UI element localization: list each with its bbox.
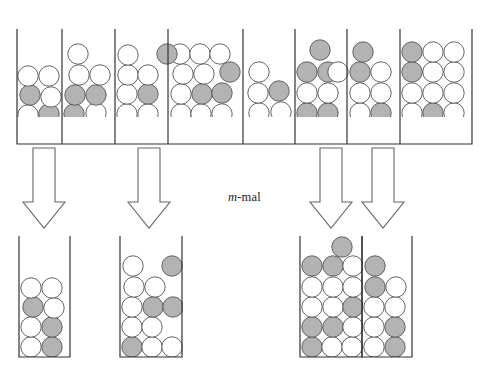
arrow-4	[362, 148, 404, 228]
ball-gray	[343, 297, 363, 317]
ball-white	[39, 66, 59, 86]
arrow-2	[128, 148, 170, 228]
top-tube-4	[157, 44, 240, 143]
ball-white	[402, 103, 422, 123]
ball-white	[423, 62, 443, 82]
ball-white	[248, 83, 268, 103]
ball-white	[343, 277, 363, 297]
arrow-3	[310, 148, 352, 228]
bottom-tube-row	[19, 236, 412, 357]
ball-white	[191, 104, 211, 124]
ball-gray	[332, 237, 352, 257]
ball-gray	[302, 337, 322, 357]
ball-gray	[122, 337, 142, 357]
ball-gray	[350, 62, 370, 82]
ball-white	[21, 337, 41, 357]
ball-gray	[365, 256, 385, 276]
ball-white	[328, 62, 348, 82]
ball-white	[423, 42, 443, 62]
ball-white	[138, 65, 158, 85]
ball-gray	[269, 81, 289, 101]
ball-white	[122, 297, 142, 317]
ball-white	[210, 44, 230, 64]
ball-white	[123, 256, 143, 276]
top-tube-6	[297, 40, 348, 143]
ball-white	[212, 104, 232, 124]
ball-gray	[23, 297, 43, 317]
ball-white	[249, 103, 269, 123]
ball-white	[142, 317, 162, 337]
ball-white	[444, 42, 464, 62]
ball-white	[342, 337, 362, 357]
m-mal-caption: m-mal	[228, 190, 261, 205]
ball-white	[117, 84, 137, 104]
ball-white	[21, 317, 41, 337]
ball-gray	[385, 317, 405, 337]
bottom-tube-2-balls	[122, 256, 183, 357]
ball-white	[271, 102, 291, 122]
ball-gray	[212, 83, 232, 103]
ball-white	[371, 83, 391, 103]
ball-white	[443, 123, 463, 143]
ball-white	[171, 84, 191, 104]
ball-white	[64, 123, 84, 143]
ball-gray	[297, 103, 317, 123]
ball-gray	[371, 103, 391, 123]
ball-white	[444, 83, 464, 103]
ball-gray	[20, 85, 40, 105]
ball-white	[122, 317, 142, 337]
ball-white	[302, 277, 322, 297]
ball-white	[191, 123, 211, 143]
ball-white	[423, 123, 443, 143]
ball-gray	[297, 123, 317, 143]
ball-white	[249, 62, 269, 82]
top-tube-5	[246, 62, 291, 143]
ball-gray	[86, 85, 106, 105]
ball-white	[322, 337, 342, 357]
ball-white	[364, 337, 384, 357]
ball-white	[194, 64, 214, 84]
ball-white	[444, 62, 464, 82]
ball-gray	[402, 62, 422, 82]
top-tube-1	[18, 66, 61, 143]
top-tube-7	[350, 42, 391, 143]
ball-white	[21, 278, 41, 298]
ball-white	[68, 44, 88, 64]
ball-gray	[297, 62, 317, 82]
ball-white	[18, 66, 38, 86]
ball-white	[318, 83, 338, 103]
ball-white	[323, 277, 343, 297]
ball-white	[386, 277, 406, 297]
ball-gray	[323, 317, 343, 337]
ball-white	[138, 104, 158, 124]
ball-gray	[353, 42, 373, 62]
ball-white	[302, 297, 322, 317]
ball-gray	[138, 84, 158, 104]
ball-white	[318, 123, 338, 143]
ball-gray	[302, 256, 322, 276]
ball-gray	[163, 297, 183, 317]
ball-white	[42, 278, 62, 298]
ball-white	[371, 62, 391, 82]
ball-gray	[402, 42, 422, 62]
ball-gray	[220, 62, 240, 82]
bottom-tube-1-balls	[21, 278, 64, 357]
ball-gray	[402, 123, 422, 143]
ball-white	[350, 103, 370, 123]
ball-white	[385, 297, 405, 317]
ball-white	[350, 83, 370, 103]
ball-gray	[318, 103, 338, 123]
ball-white	[297, 83, 317, 103]
ball-gray	[171, 123, 191, 143]
ball-gray	[323, 256, 343, 276]
top-tube-row	[17, 29, 472, 144]
ball-white	[41, 87, 61, 107]
ball-white	[124, 277, 144, 297]
ball-gray	[162, 256, 182, 276]
ball-white	[142, 337, 162, 357]
ball-sort-diagram	[0, 0, 490, 371]
ball-white	[371, 123, 391, 143]
top-tube-3	[117, 45, 158, 143]
caption-rest: -mal	[237, 190, 261, 204]
ball-gray	[192, 84, 212, 104]
